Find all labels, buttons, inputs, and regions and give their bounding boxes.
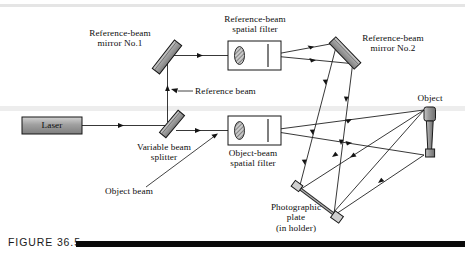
object-base [426,149,435,157]
label-variable-beam-splitter: Variable beam splitter [116,142,212,163]
figure-caption-rule [76,241,465,247]
label-object-beam: Object beam [96,186,162,196]
reference-beam-spatial-filter[interactable] [228,41,281,70]
lens-element [235,122,245,140]
figure-caption: FIGURE 36.5 [8,236,81,248]
beam-object-base-to-plate [336,155,424,214]
arrow-obj-out-top [345,119,352,124]
arrow-object-to-plate-c [332,152,338,157]
variable-beam-splitter[interactable] [159,110,184,138]
arrow-splitter-up [165,85,170,91]
figure-canvas: Laser Reference-beam mirror No.1 Referen… [0,0,465,255]
arrow-object-to-plate-a [350,153,357,158]
label-reference-beam-spatial-filter: Reference-beam spatial filter [208,14,302,35]
arrow-splitter-right [195,128,201,133]
beam-object-top-to-plate-2 [333,110,424,213]
label-reference-beam: Reference beam [195,86,295,96]
beam-mirror2-to-plate-left [299,47,336,189]
lens-element [235,47,245,65]
leader-arrow-reference-beam [171,88,178,93]
arrow-ref-out-lower [309,58,316,63]
label-photographic-plate: Photographic plate (in holder) [250,202,342,233]
object-beam-spatial-filter[interactable] [228,116,281,145]
leader-lines [146,91,216,187]
beam-mirror2-to-plate-right [334,61,353,214]
object-head [424,107,436,121]
object-body [426,121,433,150]
label-object-beam-spatial-filter: Object-beam spatial filter [206,148,300,169]
label-laser: Laser [22,120,82,130]
label-reference-beam-mirror-1: Reference-beam mirror No.1 [74,28,166,49]
object[interactable] [424,107,436,157]
beam-object-top-to-plate [301,110,424,189]
arrow-laser-right [118,123,124,128]
label-reference-beam-mirror-2: Reference-beam mirror No.2 [345,33,441,54]
label-object: Object [406,93,454,103]
arrow-mirror1-right [197,53,203,58]
arrow-obj-out-base [346,141,353,146]
